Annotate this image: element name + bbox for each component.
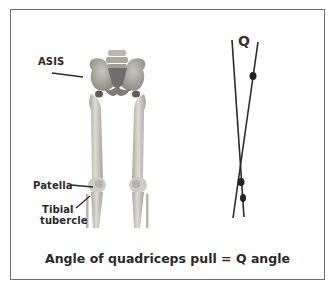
vertebrae bbox=[106, 50, 128, 69]
tibial-tubercle-dot bbox=[240, 194, 246, 202]
line-of-patellar-tendon bbox=[233, 42, 258, 218]
skeleton-illustration bbox=[86, 50, 149, 228]
femurs bbox=[89, 94, 146, 181]
line-of-quadriceps-axis bbox=[232, 40, 244, 217]
q-angle-diagram bbox=[232, 40, 258, 218]
asis-label: ASIS bbox=[38, 56, 64, 67]
patella-bone bbox=[95, 180, 103, 188]
q-label: Q bbox=[238, 33, 250, 49]
lower-legs bbox=[86, 192, 149, 228]
q-angle-figure bbox=[0, 0, 336, 288]
knees bbox=[88, 177, 147, 193]
asis-dot bbox=[250, 72, 257, 80]
patella-dot bbox=[238, 178, 245, 186]
figure-caption: Angle of quadriceps pull = Q angle bbox=[10, 251, 325, 266]
tubercle-label: tubercle bbox=[40, 215, 88, 226]
asis-leader bbox=[52, 73, 83, 77]
landmark-dots bbox=[238, 72, 257, 202]
tibial-label: Tibial bbox=[42, 204, 74, 215]
patella-label: Patella bbox=[33, 180, 73, 191]
